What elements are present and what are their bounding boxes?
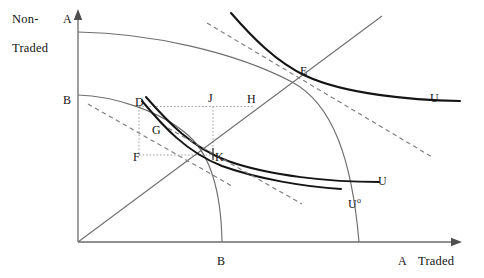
u-zero-base: U bbox=[348, 197, 357, 211]
x-tick-label-b: B bbox=[217, 255, 225, 267]
x-axis-arrowhead bbox=[451, 238, 462, 246]
price-line-at-e bbox=[207, 23, 432, 157]
point-label-e: E bbox=[300, 65, 308, 77]
y-axis-label-line2: Traded bbox=[12, 42, 48, 54]
y-axis-arrowhead bbox=[74, 9, 82, 20]
x-tick-label-a: A bbox=[398, 255, 407, 267]
u-zero-superscript: o bbox=[357, 196, 361, 205]
curve-label-u-middle: U bbox=[378, 175, 387, 187]
indifference-curve-middle bbox=[146, 97, 379, 182]
point-label-d: D bbox=[135, 96, 144, 108]
y-tick-label-b: B bbox=[63, 94, 71, 106]
y-tick-label-a: A bbox=[63, 13, 72, 25]
axes-group bbox=[74, 9, 462, 246]
curve-label-u-upper: U bbox=[430, 92, 439, 104]
curve-label-u-zero: Uo bbox=[348, 198, 361, 210]
point-label-h: H bbox=[247, 93, 256, 105]
point-label-f: F bbox=[133, 151, 140, 163]
y-axis-label-line1: Non- bbox=[12, 13, 39, 25]
traded-nontraded-diagram: Non- Traded A B B A Traded D G F J H K E… bbox=[0, 0, 484, 278]
point-label-g: G bbox=[152, 124, 161, 136]
point-label-j: J bbox=[208, 92, 213, 104]
indifference-curve-highest bbox=[231, 13, 460, 101]
point-label-k: K bbox=[215, 151, 224, 163]
origin-ray bbox=[78, 16, 382, 242]
diagram-canvas bbox=[0, 0, 484, 278]
x-axis-label: Traded bbox=[418, 255, 454, 267]
indifference-curve-u-zero bbox=[142, 101, 341, 189]
